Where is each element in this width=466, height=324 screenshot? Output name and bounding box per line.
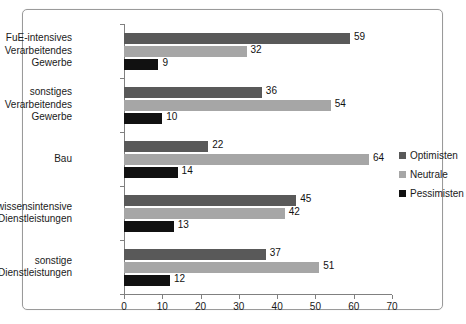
x-axis-line — [124, 294, 392, 295]
bar-pessimisten[interactable] — [124, 113, 162, 124]
x-axis-tick-label: 20 — [186, 301, 216, 312]
category-label-line: Bau — [0, 153, 72, 166]
bar-optimisten[interactable] — [124, 87, 262, 98]
bar-neutrale[interactable] — [124, 46, 247, 57]
bar-row: 32 — [124, 46, 392, 57]
legend-item-neutrale[interactable]: Neutrale — [399, 165, 466, 184]
legend-swatch-icon — [399, 152, 406, 159]
bar-row: 9 — [124, 59, 392, 70]
bar-neutrale[interactable] — [124, 262, 319, 273]
category-label-line: FuE-intensives — [0, 32, 72, 45]
category-label-line: Gewerbe — [0, 57, 72, 70]
legend-label: Pessimisten — [410, 188, 464, 199]
category-label-line: Verarbeitendes — [0, 45, 72, 58]
x-axis-tick — [392, 295, 393, 299]
category-label-line: sonstiges — [0, 86, 72, 99]
y-axis-tick — [120, 78, 124, 79]
bar-group: 375112 — [124, 249, 392, 288]
bar-group: 59329 — [124, 33, 392, 72]
legend-item-optimisten[interactable]: Optimisten — [399, 146, 466, 165]
bar-value-label: 59 — [350, 31, 365, 42]
bar-neutrale[interactable] — [124, 154, 369, 165]
bar-row: 64 — [124, 154, 392, 165]
bar-row: 42 — [124, 208, 392, 219]
x-axis-tick-label: 30 — [224, 301, 254, 312]
bar-group: 454213 — [124, 195, 392, 234]
bar-value-label: 10 — [162, 111, 177, 122]
plot-area: 010203040506070 593293654102264144542133… — [124, 24, 392, 294]
bar-value-label: 22 — [208, 139, 223, 150]
bar-optimisten[interactable] — [124, 141, 208, 152]
bar-value-label: 36 — [262, 85, 277, 96]
y-axis-tick — [120, 186, 124, 187]
bar-value-label: 9 — [158, 57, 168, 68]
x-axis-tick-label: 10 — [147, 301, 177, 312]
y-axis-tick — [120, 132, 124, 133]
bar-value-label: 51 — [319, 260, 334, 271]
bar-row: 14 — [124, 167, 392, 178]
x-axis-tick — [201, 295, 202, 299]
bar-value-label: 14 — [178, 165, 193, 176]
category-label-line: Gewerbe — [0, 111, 72, 124]
bar-row: 10 — [124, 113, 392, 124]
x-axis-tick — [277, 295, 278, 299]
bar-row: 54 — [124, 100, 392, 111]
bar-value-label: 37 — [266, 247, 281, 258]
x-axis-tick-label: 60 — [339, 301, 369, 312]
x-axis-tick — [124, 295, 125, 299]
bar-neutrale[interactable] — [124, 208, 285, 219]
x-axis-tick-label: 40 — [262, 301, 292, 312]
bar-pessimisten[interactable] — [124, 59, 158, 70]
category-label-line: Dienstleistungen — [0, 213, 72, 226]
legend-swatch-icon — [399, 190, 406, 197]
x-axis-tick — [162, 295, 163, 299]
bar-row: 51 — [124, 262, 392, 273]
bar-value-label: 32 — [247, 44, 262, 55]
bar-value-label: 64 — [369, 152, 384, 163]
category-label-line: Dienstleistungen — [0, 267, 72, 280]
bar-value-label: 42 — [285, 206, 300, 217]
category-label: Bau — [0, 153, 72, 166]
y-axis-tick — [120, 24, 124, 25]
bar-row: 36 — [124, 87, 392, 98]
bar-row: 13 — [124, 221, 392, 232]
category-label: sonstigesVerarbeitendesGewerbe — [0, 86, 72, 124]
bar-row: 12 — [124, 275, 392, 286]
y-axis-tick — [120, 240, 124, 241]
chart-legend: OptimistenNeutralePessimisten — [399, 146, 466, 203]
bar-row: 45 — [124, 195, 392, 206]
y-axis-tick — [120, 294, 124, 295]
category-label: wissensintensiveDienstleistungen — [0, 201, 72, 226]
x-axis-tick-label: 70 — [377, 301, 407, 312]
category-label: sonstigeDienstleistungen — [0, 255, 72, 280]
bar-pessimisten[interactable] — [124, 221, 174, 232]
x-axis-tick-label: 50 — [300, 301, 330, 312]
bar-group: 365410 — [124, 87, 392, 126]
category-label: FuE-intensivesVerarbeitendesGewerbe — [0, 32, 72, 70]
bar-value-label: 54 — [331, 98, 346, 109]
bar-row: 37 — [124, 249, 392, 260]
bar-pessimisten[interactable] — [124, 275, 170, 286]
legend-swatch-icon — [399, 171, 406, 178]
x-axis-tick — [315, 295, 316, 299]
bar-neutrale[interactable] — [124, 100, 331, 111]
x-axis-tick — [239, 295, 240, 299]
bar-pessimisten[interactable] — [124, 167, 178, 178]
bar-group: 226414 — [124, 141, 392, 180]
x-axis-tick — [354, 295, 355, 299]
bar-optimisten[interactable] — [124, 33, 350, 44]
bar-row: 59 — [124, 33, 392, 44]
category-label-line: sonstige — [0, 255, 72, 268]
bar-value-label: 12 — [170, 273, 185, 284]
bar-row: 22 — [124, 141, 392, 152]
bar-optimisten[interactable] — [124, 195, 296, 206]
legend-item-pessimisten[interactable]: Pessimisten — [399, 184, 466, 203]
category-label-line: Verarbeitendes — [0, 99, 72, 112]
category-label-line: wissensintensive — [0, 201, 72, 214]
bar-value-label: 13 — [174, 219, 189, 230]
bar-value-label: 45 — [296, 193, 311, 204]
legend-label: Optimisten — [410, 150, 458, 161]
x-axis-tick-label: 0 — [109, 301, 139, 312]
chart-frame: 010203040506070 593293654102264144542133… — [22, 9, 443, 310]
bar-optimisten[interactable] — [124, 249, 266, 260]
